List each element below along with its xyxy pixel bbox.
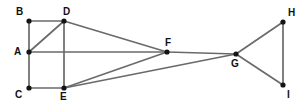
graph-vertex-g[interactable]	[233, 51, 238, 56]
vertex-label-f: F	[165, 38, 171, 48]
graph-edge-g-h	[236, 22, 283, 54]
vertex-label-h: H	[288, 8, 295, 18]
graph-vertex-h[interactable]	[280, 19, 285, 24]
vertex-label-d: D	[63, 7, 70, 17]
graph-vertex-i[interactable]	[280, 82, 285, 87]
graph-edge-e-g	[64, 54, 236, 88]
graph-vertex-e[interactable]	[61, 85, 66, 90]
graph-svg	[0, 0, 307, 107]
graph-vertex-a[interactable]	[26, 49, 31, 54]
vertex-label-c: C	[15, 90, 22, 100]
vertex-label-b: B	[16, 7, 23, 17]
graph-diagram-canvas: ABCDEFGHI	[0, 0, 307, 107]
graph-vertex-f[interactable]	[164, 49, 169, 54]
vertex-label-a: A	[14, 47, 21, 57]
graph-vertex-c[interactable]	[26, 85, 31, 90]
vertices-layer	[26, 18, 285, 90]
vertex-label-e: E	[60, 92, 67, 102]
vertex-label-i: I	[287, 90, 290, 100]
graph-edge-g-i	[236, 54, 283, 85]
graph-vertex-b[interactable]	[26, 18, 31, 23]
edges-layer	[29, 21, 283, 88]
graph-edge-a-d	[29, 21, 64, 52]
graph-vertex-d[interactable]	[61, 18, 66, 23]
vertex-label-g: G	[231, 59, 239, 69]
graph-edge-d-f	[64, 21, 167, 52]
graph-edge-f-g	[167, 52, 236, 54]
